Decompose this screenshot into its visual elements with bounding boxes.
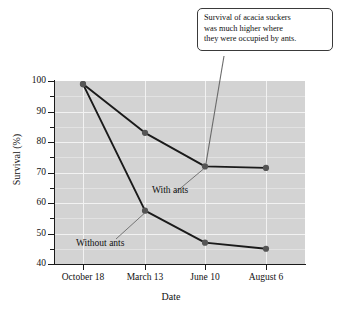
gridline-horizontal [55, 173, 305, 174]
x-tick [145, 265, 146, 270]
y-tick-label: 40 [37, 258, 47, 268]
gridline-horizontal [55, 203, 305, 204]
y-tick-major [48, 264, 55, 265]
x-tick-label: August 6 [226, 272, 306, 282]
y-tick-minor [50, 96, 55, 97]
gridline-vertical [205, 81, 206, 264]
y-tick-minor [50, 188, 55, 189]
y-tick-minor [50, 127, 55, 128]
gridline-vertical [145, 81, 146, 264]
gridline-horizontal-minor [55, 157, 305, 158]
y-axis-title: Survival (%) [11, 105, 22, 215]
y-tick-major [48, 173, 55, 174]
gridline-horizontal-minor [55, 96, 305, 97]
chart-figure: Survival of acacia suckers was much high… [0, 0, 342, 316]
callout-line-2: was much higher where [204, 24, 326, 35]
x-tick [83, 265, 84, 270]
y-tick-major [48, 203, 55, 204]
x-axis-line [54, 264, 306, 265]
y-tick-label: 50 [37, 228, 47, 238]
gridline-horizontal [55, 142, 305, 143]
y-tick-major [48, 112, 55, 113]
y-tick-minor [50, 249, 55, 250]
plot-area [55, 81, 305, 264]
y-tick-label: 80 [37, 136, 47, 146]
series-label-without-ants: Without ants [76, 238, 124, 248]
callout-line-3: they were occupied by ants. [204, 34, 326, 45]
y-tick-label: 70 [37, 167, 47, 177]
gridline-horizontal [55, 234, 305, 235]
gridline-horizontal-minor [55, 218, 305, 219]
gridline-horizontal-minor [55, 127, 305, 128]
x-tick [266, 265, 267, 270]
y-tick-label: 60 [37, 197, 47, 207]
y-tick-major [48, 81, 55, 82]
callout-box: Survival of acacia suckers was much high… [197, 8, 333, 51]
gridline-vertical [83, 81, 84, 264]
y-tick-major [48, 142, 55, 143]
series-label-with-ants: With ants [152, 185, 188, 195]
x-axis-title: Date [0, 291, 342, 302]
y-tick-label: 90 [37, 106, 47, 116]
y-tick-major [48, 234, 55, 235]
y-tick-minor [50, 157, 55, 158]
gridline-vertical [266, 81, 267, 264]
x-tick [205, 265, 206, 270]
y-tick-label: 100 [32, 75, 46, 85]
callout-line-1: Survival of acacia suckers [204, 13, 326, 24]
y-tick-minor [50, 218, 55, 219]
gridline-horizontal [55, 112, 305, 113]
gridline-horizontal-minor [55, 249, 305, 250]
